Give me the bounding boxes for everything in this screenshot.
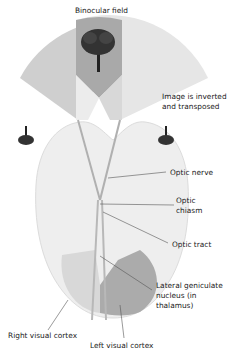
optic-chiasm-label-line1: Optic — [176, 196, 196, 206]
left-visual-cortex-label: Left visual cortex — [90, 341, 153, 351]
optic-nerve-label: Optic nerve — [170, 168, 213, 178]
lgn-label-line3: thalamus) — [156, 301, 193, 311]
image-note-line1: Image is inverted — [162, 92, 227, 102]
lgn-label-line2: nucleus (in — [156, 291, 197, 301]
right-visual-cortex-label: Right visual cortex — [8, 331, 77, 341]
optic-chiasm-label-line2: chiasm — [176, 206, 202, 216]
right-cortex-leader — [48, 300, 68, 330]
left-eye-icon — [18, 126, 34, 145]
binocular-field-label: Binocular field — [75, 6, 128, 16]
lgn-label-line1: Lateral geniculate — [156, 281, 223, 291]
optic-tract-label: Optic tract — [172, 240, 211, 250]
image-note-line2: and transposed — [162, 102, 220, 112]
